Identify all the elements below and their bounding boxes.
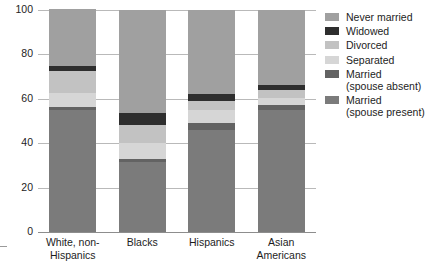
- legend-item[interactable]: Separated: [325, 54, 429, 66]
- y-axis-tick-labels: 020406080100: [0, 0, 33, 242]
- legend-item-label: Married (spouse absent): [346, 68, 421, 92]
- y-tick-label: 80: [21, 48, 33, 58]
- legend-item-label: Married (spouse present): [346, 94, 425, 118]
- legend-swatch-icon: [325, 56, 339, 64]
- legend-item-label: Widowed: [346, 25, 389, 37]
- legend-item-label: Separated: [346, 54, 394, 66]
- y-tick-label: 60: [21, 93, 33, 103]
- x-category-label: White, non- Hispanics: [38, 236, 108, 261]
- bar-segment[interactable]: [188, 94, 235, 101]
- y-tick-label: 100: [15, 4, 33, 14]
- stacked-bar[interactable]: [49, 10, 96, 232]
- bar-group[interactable]: [188, 10, 235, 232]
- bar-segment[interactable]: [49, 107, 96, 110]
- bar-segment[interactable]: [49, 71, 96, 93]
- legend-item[interactable]: Married (spouse absent): [325, 68, 429, 92]
- legend-swatch-icon: [325, 13, 339, 21]
- axis-baseline: [38, 232, 316, 233]
- bar-segment[interactable]: [258, 105, 305, 109]
- bar-segment[interactable]: [119, 125, 166, 143]
- legend-item[interactable]: Married (spouse present): [325, 94, 429, 118]
- y-tick-label: 0: [27, 226, 33, 236]
- legend-swatch-icon: [325, 41, 339, 49]
- legend-swatch-icon: [325, 27, 339, 35]
- bar-segment[interactable]: [49, 110, 96, 232]
- legend-item-label: Never married: [346, 11, 413, 23]
- bar-segment[interactable]: [188, 130, 235, 232]
- bar-segment[interactable]: [188, 101, 235, 110]
- chart-legend: Never marriedWidowedDivorcedSeparatedMar…: [325, 11, 429, 121]
- y-tick-label: 20: [21, 182, 33, 192]
- x-category-label: Blacks: [108, 236, 178, 249]
- bar-group[interactable]: [49, 10, 96, 232]
- bar-segment[interactable]: [49, 66, 96, 72]
- bar-segment[interactable]: [258, 10, 305, 85]
- bar-segment[interactable]: [258, 98, 305, 106]
- bar-segment[interactable]: [258, 110, 305, 232]
- stacked-bar[interactable]: [188, 10, 235, 232]
- y-tick-label: 40: [21, 137, 33, 147]
- bar-segment[interactable]: [119, 159, 166, 162]
- bar-segment[interactable]: [119, 10, 166, 113]
- stacked-bar[interactable]: [258, 10, 305, 232]
- legend-item[interactable]: Widowed: [325, 25, 429, 37]
- axis-edge-tick: [0, 246, 7, 247]
- plot-area: [38, 10, 316, 232]
- stacked-bar[interactable]: [119, 10, 166, 232]
- bar-segment[interactable]: [188, 10, 235, 94]
- legend-item-label: Divorced: [346, 39, 387, 51]
- legend-swatch-icon: [325, 96, 339, 104]
- x-category-label: Asian Americans: [247, 236, 317, 261]
- bar-segment[interactable]: [258, 90, 305, 98]
- legend-item[interactable]: Never married: [325, 11, 429, 23]
- bar-segment[interactable]: [49, 93, 96, 106]
- legend-item[interactable]: Divorced: [325, 39, 429, 51]
- x-category-label: Hispanics: [177, 236, 247, 249]
- bar-segment[interactable]: [119, 113, 166, 125]
- bar-segment[interactable]: [119, 162, 166, 232]
- bar-group[interactable]: [258, 10, 305, 232]
- legend-swatch-icon: [325, 70, 339, 78]
- bar-group[interactable]: [119, 10, 166, 232]
- stacked-bar-chart: 020406080100 White, non- HispanicsBlacks…: [0, 0, 429, 268]
- bar-segment[interactable]: [188, 110, 235, 123]
- bar-segment[interactable]: [188, 123, 235, 130]
- bar-segment[interactable]: [49, 9, 96, 66]
- bar-segment[interactable]: [119, 143, 166, 159]
- bar-segment[interactable]: [258, 85, 305, 89]
